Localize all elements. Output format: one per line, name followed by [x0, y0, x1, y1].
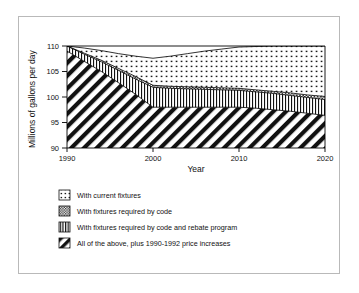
- x-tick-label: 2020: [317, 154, 334, 163]
- y-tick-label: 110: [47, 42, 59, 51]
- legend-label: With fixtures required by code and rebat…: [77, 223, 237, 232]
- legend-label: With current fixtures: [77, 191, 141, 200]
- y-tick-label: 90: [51, 144, 59, 153]
- legend-label: All of the above, plus 1990-1992 price i…: [77, 239, 231, 248]
- x-tick-label: 1990: [59, 154, 76, 163]
- y-tick-label: 100: [46, 93, 59, 102]
- vertical-lines-swatch: [59, 222, 70, 232]
- dotted-swatch: [59, 190, 70, 200]
- checkered-swatch: [59, 206, 70, 216]
- chart-figure: Millions of gallons per day 909510010511…: [0, 0, 359, 293]
- plot-areas: [67, 46, 325, 148]
- legend-item-price-increases[interactable]: All of the above, plus 1990-1992 price i…: [59, 238, 231, 248]
- x-axis-ticks: 1990200020102020: [59, 148, 334, 163]
- y-tick-label: 105: [46, 67, 59, 76]
- legend-item-current-fixtures[interactable]: With current fixtures: [59, 190, 141, 200]
- legend-item-code-fixtures[interactable]: With fixtures required by code: [59, 206, 172, 216]
- x-tick-label: 2000: [145, 154, 162, 163]
- chart-legend: With current fixtures With fixtures requ…: [59, 190, 237, 248]
- x-tick-label: 2010: [231, 154, 248, 163]
- y-axis-ticks: 9095100105110: [46, 42, 67, 153]
- x-axis-title: Year: [187, 164, 204, 174]
- y-axis-title: Millions of gallons per day: [27, 49, 37, 148]
- legend-label: With fixtures required by code: [77, 207, 172, 216]
- legend-item-code-rebate[interactable]: With fixtures required by code and rebat…: [59, 222, 237, 232]
- diagonal-hatch-swatch: [59, 238, 70, 248]
- y-tick-label: 95: [51, 118, 59, 127]
